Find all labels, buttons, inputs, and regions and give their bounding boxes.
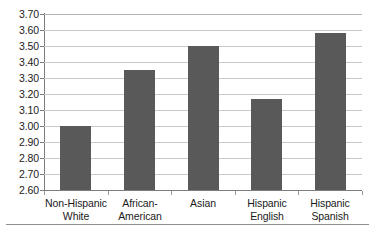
x-axis-tick-mark xyxy=(171,191,172,195)
y-axis-tick-label: 2.90 xyxy=(1,137,39,147)
y-axis-tick-label: 3.20 xyxy=(1,89,39,99)
y-axis-tick-mark xyxy=(40,30,44,31)
bar xyxy=(60,126,91,190)
y-axis-tick-mark xyxy=(40,126,44,127)
y-axis-tick-mark xyxy=(40,110,44,111)
y-axis-tick-label: 3.60 xyxy=(1,25,39,35)
y-axis-tick-label: 3.40 xyxy=(1,57,39,67)
bar xyxy=(124,70,155,190)
bar xyxy=(251,99,282,190)
bottom-divider-rule xyxy=(6,224,369,225)
x-axis-tick-mark xyxy=(298,191,299,195)
x-axis-tick-mark xyxy=(235,191,236,195)
bar-chart-figure: 3.703.603.503.403.303.203.103.002.902.80… xyxy=(0,0,375,235)
y-axis-tick-mark xyxy=(40,158,44,159)
y-axis-tick-mark xyxy=(40,174,44,175)
y-axis-tick-label: 3.50 xyxy=(1,41,39,51)
x-axis-label-line: Spanish xyxy=(292,210,368,223)
y-axis-tick-label: 2.60 xyxy=(1,185,39,195)
x-axis-line xyxy=(44,190,362,191)
y-axis-tick-label: 3.00 xyxy=(1,121,39,131)
plot-area xyxy=(44,14,362,190)
y-axis-tick-mark xyxy=(40,142,44,143)
x-axis-tick-mark xyxy=(362,191,363,195)
y-axis-tick-mark xyxy=(40,46,44,47)
x-axis-tick-mark xyxy=(108,191,109,195)
y-axis-tick-label: 2.80 xyxy=(1,153,39,163)
x-axis-tick-mark xyxy=(44,191,45,195)
y-axis-tick-label: 3.30 xyxy=(1,73,39,83)
y-axis-tick-mark xyxy=(40,14,44,15)
gridline xyxy=(44,30,362,31)
bar xyxy=(188,46,219,190)
y-axis-tick-mark xyxy=(40,62,44,63)
y-axis-tick-label: 2.70 xyxy=(1,169,39,179)
y-axis-tick-label: 3.70 xyxy=(1,9,39,19)
y-axis-tick-mark xyxy=(40,78,44,79)
x-axis-label-line: American xyxy=(102,210,178,223)
y-axis-tick-label: 3.10 xyxy=(1,105,39,115)
y-axis-tick-mark xyxy=(40,94,44,95)
bar xyxy=(315,33,346,190)
x-axis-label-line: Hispanic xyxy=(292,197,368,210)
gridline xyxy=(44,14,362,15)
y-axis-tick-labels: 3.703.603.503.403.303.203.103.002.902.80… xyxy=(0,0,39,235)
x-axis-category-label: HispanicSpanish xyxy=(292,197,368,222)
